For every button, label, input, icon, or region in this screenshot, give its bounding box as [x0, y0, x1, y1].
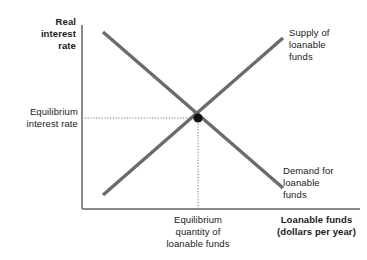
y-axis-title: Real interest rate: [0, 16, 76, 52]
equilibrium-quantity-label: Equilibrium quantity of loanable funds: [144, 214, 252, 250]
demand-curve: [103, 32, 283, 188]
equilibrium-interest-rate-label: Equilibrium interest rate: [0, 106, 78, 130]
supply-curve: [103, 38, 283, 195]
demand-curve-label: Demand for loanable funds: [283, 165, 367, 201]
x-axis-title: Loanable funds (dollars per year): [266, 214, 367, 238]
supply-curve-label: Supply of loanable funds: [289, 27, 367, 63]
equilibrium-point-marker: [193, 113, 202, 122]
loanable-funds-diagram: Real interest rate Equilibrium interest …: [0, 0, 367, 260]
